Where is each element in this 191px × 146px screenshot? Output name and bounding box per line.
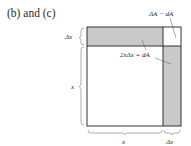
left-brace-small [79,28,84,45]
left-label-x: x [70,83,75,91]
panel-label: (b) and (c) [7,7,56,20]
bottom-label-x: x [121,138,126,146]
bottom-label-dx: Δx [165,138,174,146]
strip-annotation: 2xΔx = dA [120,51,151,59]
bottom-brace-large [88,130,162,135]
diagram-canvas: (b) and (c) Δx x x Δx ΔA − dA 2xΔx = dA [0,0,191,146]
corner-annotation: ΔA − dA [148,10,174,18]
top-strip [87,27,163,46]
corner-square [163,27,181,46]
bottom-brace-small [164,130,180,135]
left-label-dx: Δx [64,33,73,41]
left-brace-large [79,47,84,125]
right-strip [163,46,181,126]
